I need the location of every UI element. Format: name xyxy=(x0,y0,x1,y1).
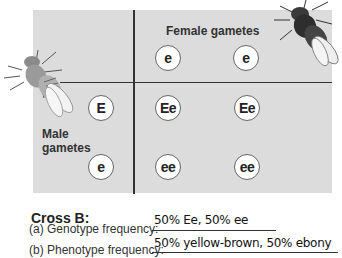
fruit-fly-ebony-icon xyxy=(272,0,342,70)
offspring-cell-2-1: ee xyxy=(155,154,181,180)
female-gamete-2: e xyxy=(233,45,259,71)
phenotype-answer-underline xyxy=(152,252,338,253)
male-gametes-label: Male gametes xyxy=(42,127,91,155)
phenotype-answer: 50% yellow-brown, 50% ebony xyxy=(154,236,331,250)
female-gamete-1: e xyxy=(155,45,181,71)
female-gametes-label: Female gametes xyxy=(166,24,259,38)
offspring-cell-1-2: Ee xyxy=(234,95,260,121)
genotype-answer-underline xyxy=(152,230,276,231)
male-label-line2: gametes xyxy=(42,141,91,155)
genotype-question-label: (a) Genotype frequency: xyxy=(29,222,158,236)
fruit-fly-yellow-brown-icon xyxy=(0,48,80,118)
punnett-vertical-divider xyxy=(133,10,135,194)
male-label-line1: Male xyxy=(42,127,91,141)
male-gamete-1: E xyxy=(88,95,114,121)
offspring-cell-2-2: ee xyxy=(234,154,260,180)
phenotype-question-label: (b) Phenotype frequency: xyxy=(29,243,164,257)
genotype-answer: 50% Ee, 50% ee xyxy=(154,213,248,227)
offspring-cell-1-1: Ee xyxy=(155,95,181,121)
male-gamete-2: e xyxy=(88,154,114,180)
punnett-horizontal-divider xyxy=(60,82,332,84)
